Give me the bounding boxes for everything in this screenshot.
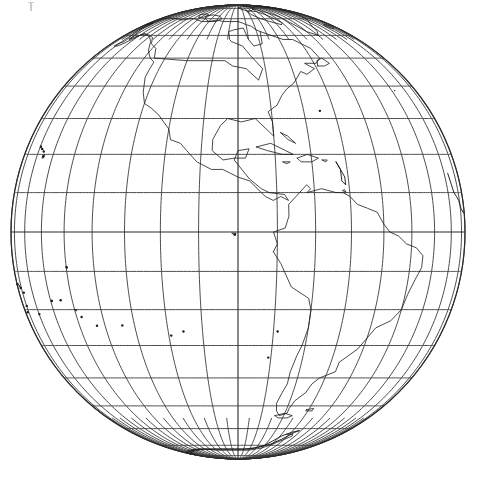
- island-marker-15: [38, 313, 40, 315]
- scan-mark: [28, 2, 34, 11]
- island-marker-13: [16, 283, 18, 285]
- island-marker-0: [51, 300, 53, 302]
- island-marker-8: [182, 330, 184, 332]
- island-marker-19: [121, 324, 123, 326]
- island-marker-12: [20, 287, 22, 289]
- island-marker-5: [43, 150, 45, 152]
- globe-map[interactable]: [0, 0, 478, 478]
- island-marker-3: [319, 110, 321, 112]
- island-marker-14: [23, 291, 25, 293]
- island-marker-10: [234, 233, 236, 235]
- island-marker-11: [276, 330, 278, 332]
- island-marker-9: [267, 356, 269, 358]
- island-marker-6: [42, 155, 44, 157]
- island-marker-18: [96, 325, 98, 327]
- island-marker-4: [41, 148, 43, 150]
- globe-figure: [0, 0, 478, 478]
- island-marker-2: [170, 334, 172, 336]
- island-marker-1: [66, 266, 68, 268]
- coast-azores: [395, 90, 396, 91]
- island-marker-17: [80, 316, 82, 318]
- island-marker-21: [27, 311, 29, 313]
- coast-samoa: [19, 285, 20, 287]
- island-marker-20: [25, 305, 27, 307]
- island-marker-16: [59, 299, 61, 301]
- island-marker-7: [40, 146, 42, 148]
